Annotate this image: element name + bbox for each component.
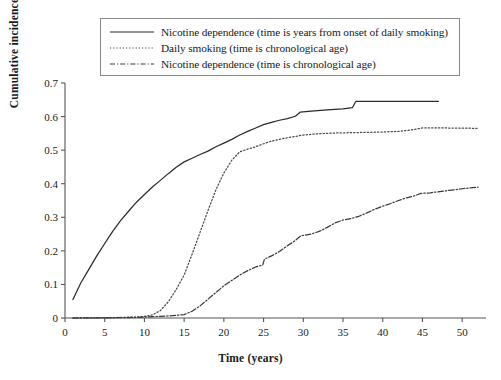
x-tick-label: 30 xyxy=(298,326,310,338)
y-tick-label: 0.1 xyxy=(44,278,58,290)
y-tick-label: 0 xyxy=(53,312,59,324)
y-tick-label: 0.7 xyxy=(44,77,58,89)
y-tick-label: 0.4 xyxy=(44,178,58,190)
figure-container: Nicotine dependence (time is years from … xyxy=(0,0,501,380)
axis-layer: 00.10.20.30.40.50.60.7051015202530354045… xyxy=(44,77,486,338)
x-tick-label: 25 xyxy=(258,326,270,338)
x-tick-label: 15 xyxy=(179,326,191,338)
x-tick-label: 20 xyxy=(218,326,230,338)
x-tick-label: 0 xyxy=(62,326,68,338)
y-tick-label: 0.2 xyxy=(44,245,58,257)
x-axis-title: Time (years) xyxy=(0,352,501,364)
y-tick-label: 0.3 xyxy=(44,211,58,223)
x-tick-label: 35 xyxy=(338,326,350,338)
series-line-1 xyxy=(73,128,478,318)
y-tick-label: 0.6 xyxy=(44,111,58,123)
chart-plot-area: 00.10.20.30.40.50.60.7051015202530354045… xyxy=(0,0,501,380)
x-tick-label: 40 xyxy=(377,326,389,338)
y-axis-title: Cumulative incidence xyxy=(8,0,20,128)
x-tick-label: 50 xyxy=(457,326,469,338)
series-line-0 xyxy=(73,101,438,299)
series-layer xyxy=(73,101,478,318)
series-line-2 xyxy=(73,187,478,318)
x-tick-label: 10 xyxy=(139,326,151,338)
x-tick-label: 45 xyxy=(417,326,429,338)
y-tick-label: 0.5 xyxy=(44,144,58,156)
x-tick-label: 5 xyxy=(102,326,108,338)
